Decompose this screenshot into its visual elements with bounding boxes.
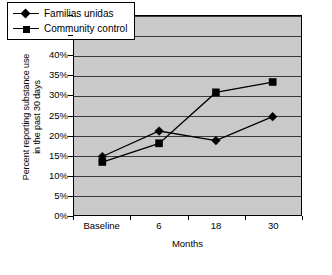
x-axis-tick-mark [302,216,303,220]
legend-label-familias-unidas: Familias unidas [44,8,113,20]
chart-container: Percent reporting substance use in the p… [0,0,332,275]
x-axis-tick-label: 6 [156,220,161,232]
x-axis-tick-mark [188,216,189,220]
y-axis-tick-label: 15% [33,151,68,161]
y-axis-tick-mark [68,136,73,137]
y-axis-tick-mark [68,116,73,117]
y-axis-tick-mark [68,176,73,177]
x-axis-tick-mark [130,216,131,220]
plot-area [73,15,302,216]
y-axis-tick-label: 0% [33,211,68,221]
y-axis-tick-mark [68,196,73,197]
series-layer [74,16,301,215]
data-point-diamond [155,127,164,136]
square-marker-icon [13,23,39,35]
y-axis-tick-label: 10% [33,171,68,181]
x-axis-tick-label: 18 [211,220,222,232]
data-point-square [212,89,219,96]
x-axis-title: Months [73,238,302,249]
x-axis-tick-mark [73,216,74,220]
series-line [102,82,272,162]
y-axis-tick-label: 25% [33,111,68,121]
legend-item-familias-unidas: Familias unidas [13,6,127,21]
legend-item-community-control: Community control [13,21,127,36]
y-axis-tick-mark [68,35,73,36]
data-point-diamond [268,112,277,121]
y-axis-tick-mark [68,75,73,76]
data-point-square [156,140,163,147]
y-axis-tick-labels: 0%5%10%15%20%25%30%35%40%45%50% [33,11,68,219]
x-axis-tick-mark [245,216,246,220]
y-axis-tick-label: 40% [33,50,68,60]
y-axis-tick-label: 30% [33,90,68,100]
data-point-diamond [212,136,221,145]
x-axis-tick-label: 30 [268,220,279,232]
y-axis-tick-label: 5% [33,191,68,201]
y-axis-tick-mark [68,55,73,56]
y-axis-tick-label: 20% [33,131,68,141]
data-point-square [99,159,106,166]
legend-label-community-control: Community control [44,23,127,35]
x-axis-tick-labels: Baseline61830 [73,220,302,234]
data-point-square [269,79,276,86]
diamond-marker-icon [13,8,39,20]
y-axis-title-line-1: Percent reporting substance use [21,12,32,222]
y-axis-tick-label: 35% [33,70,68,80]
series-line [102,117,272,157]
y-axis-tick-mark [68,95,73,96]
y-axis-tick-mark [68,156,73,157]
y-axis-tick-mark [68,15,73,16]
x-axis-tick-label: Baseline [83,220,119,232]
